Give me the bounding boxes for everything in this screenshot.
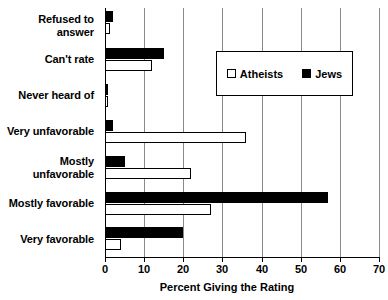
x-axis-tick bbox=[183, 257, 184, 262]
x-axis-tick-label: 60 bbox=[325, 263, 355, 275]
bar-jews bbox=[105, 156, 125, 167]
x-axis-tick-label: 0 bbox=[90, 263, 120, 275]
x-axis-tick bbox=[301, 257, 302, 262]
bar-group-mostly-unfavorable bbox=[105, 152, 379, 188]
x-axis-tick bbox=[144, 257, 145, 262]
y-axis-label: Refused to answer bbox=[38, 13, 94, 38]
legend-entry-atheists: Atheists bbox=[227, 68, 283, 80]
x-axis-tick bbox=[105, 257, 106, 262]
bar-atheists bbox=[105, 204, 211, 215]
x-axis-title: Percent Giving the Rating bbox=[0, 281, 388, 293]
bar-atheists bbox=[105, 132, 246, 143]
x-axis-tick-label: 20 bbox=[168, 263, 198, 275]
gridline-70 bbox=[379, 8, 380, 257]
x-axis-tick-label: 10 bbox=[129, 263, 159, 275]
bar-group-very-unfavorable bbox=[105, 116, 379, 152]
bar-jews bbox=[105, 120, 113, 131]
x-axis-tick-label: 50 bbox=[286, 263, 316, 275]
bar-jews bbox=[105, 11, 113, 22]
legend-entry-jews: Jews bbox=[302, 68, 342, 80]
bar-atheists bbox=[105, 23, 110, 34]
bar-atheists bbox=[105, 96, 108, 107]
bar-jews bbox=[105, 192, 328, 203]
x-axis-tick-label: 30 bbox=[207, 263, 237, 275]
legend-label: Jews bbox=[315, 68, 342, 80]
plot-area bbox=[105, 8, 379, 257]
bar-atheists bbox=[105, 60, 152, 71]
chart-legend: Atheists Jews bbox=[216, 51, 353, 96]
x-axis-tick bbox=[340, 257, 341, 262]
bar-group-mostly-favorable bbox=[105, 188, 379, 224]
y-axis-label: Never heard of bbox=[18, 89, 94, 102]
x-axis-tick bbox=[379, 257, 380, 262]
bar-group-very-favorable bbox=[105, 224, 379, 260]
y-axis-label: Mostly unfavorable bbox=[33, 155, 94, 180]
x-axis-tick bbox=[262, 257, 263, 262]
y-axis-label: Can't rate bbox=[45, 53, 94, 66]
legend-label: Atheists bbox=[240, 68, 283, 80]
bar-chart: Refused to answer Can't rate Never heard… bbox=[0, 0, 388, 300]
x-axis-tick-label: 40 bbox=[247, 263, 277, 275]
y-axis-labels: Refused to answer Can't rate Never heard… bbox=[0, 8, 100, 257]
x-axis-tick bbox=[222, 257, 223, 262]
hollow-square-icon bbox=[227, 69, 236, 78]
y-axis-label: Very favorable bbox=[20, 233, 94, 246]
bar-atheists bbox=[105, 239, 121, 250]
y-axis-label: Mostly favorable bbox=[9, 197, 94, 210]
x-axis-tick-label: 70 bbox=[364, 263, 388, 275]
bar-atheists bbox=[105, 168, 191, 179]
bar-jews bbox=[105, 227, 183, 238]
filled-square-icon bbox=[302, 69, 311, 78]
bar-group-refused-to-answer bbox=[105, 8, 379, 44]
x-axis-line bbox=[105, 257, 380, 258]
bar-jews bbox=[105, 84, 108, 95]
bar-jews bbox=[105, 48, 164, 59]
y-axis-label: Very unfavorable bbox=[7, 125, 94, 138]
